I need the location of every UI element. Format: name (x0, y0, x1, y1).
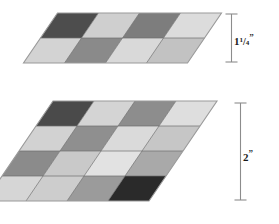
dimension-unit: ” (249, 32, 254, 42)
small-parallelogram (24, 13, 222, 63)
diagram-canvas: 11/4” 2” (0, 0, 279, 224)
large-parallelogram (0, 101, 217, 201)
dimension-label-top: 11/4” (234, 32, 254, 48)
dimension-label-bottom: 2” (243, 148, 253, 164)
tile-row (0, 176, 166, 201)
dimension-fraction: 1/4 (240, 36, 250, 47)
dimension-unit: ” (249, 148, 254, 158)
